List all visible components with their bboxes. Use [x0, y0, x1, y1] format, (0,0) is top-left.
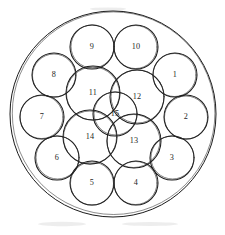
circle-label-14: 14: [86, 132, 95, 141]
circle-label-1: 1: [173, 70, 177, 79]
circle-label-12: 12: [133, 92, 142, 101]
circle-packing-canvas: 123456789101112131415: [0, 0, 225, 235]
circle-label-11: 11: [89, 88, 97, 97]
circle-label-3: 3: [170, 153, 174, 162]
circle-label-4: 4: [134, 178, 138, 187]
circle-packing-figure: 123456789101112131415: [0, 0, 225, 235]
circle-label-2: 2: [184, 112, 188, 121]
circle-label-5: 5: [90, 178, 94, 187]
circle-label-6: 6: [55, 153, 59, 162]
circle-label-9: 9: [90, 42, 94, 51]
circle-label-7: 7: [40, 112, 44, 121]
circle-label-10: 10: [132, 42, 141, 51]
circle-label-15: 15: [111, 109, 120, 118]
circle-label-13: 13: [130, 136, 139, 145]
circle-label-8: 8: [52, 70, 56, 79]
